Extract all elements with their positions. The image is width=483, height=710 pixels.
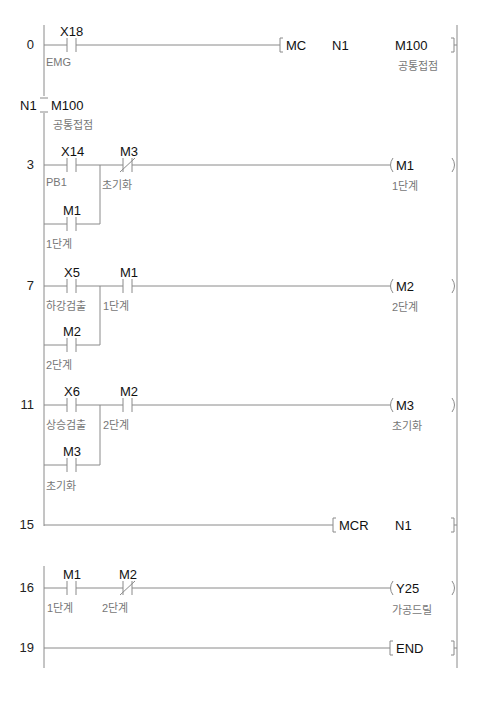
contact-device[interactable]: M1	[120, 265, 138, 280]
contact-device[interactable]: M3	[120, 144, 138, 159]
coil-device[interactable]: M2	[396, 279, 414, 294]
step-number: 7	[4, 278, 34, 293]
coil-comment: 초기화	[392, 417, 422, 433]
instruction-comment: 공통접점	[398, 57, 438, 73]
coil-comment: 가공드릴	[392, 601, 432, 617]
contact-device[interactable]: M1	[63, 567, 81, 582]
contact-device[interactable]: X6	[64, 384, 80, 399]
step-number: 15	[4, 517, 34, 532]
contact-device[interactable]: M2	[119, 567, 137, 582]
branch-device[interactable]: M2	[63, 324, 81, 339]
instruction-arg: N1	[395, 518, 412, 533]
branch-comment: 초기화	[46, 477, 76, 493]
coil-comment: 1단계	[392, 177, 418, 193]
step-number: 16	[4, 580, 34, 595]
contact-device[interactable]: X5	[64, 265, 80, 280]
contact-comment: EMG	[46, 56, 71, 68]
branch-device[interactable]: M1	[63, 203, 81, 218]
contact-device[interactable]: X14	[61, 144, 84, 159]
coil-comment: 2단계	[392, 298, 418, 314]
instruction-op[interactable]: MC	[286, 38, 306, 53]
nest-device: M100	[51, 98, 84, 113]
instruction-op[interactable]: END	[396, 641, 423, 656]
nest-comment: 공통접점	[53, 116, 93, 132]
instruction-arg: M100	[395, 38, 428, 53]
step-number: 0	[4, 37, 34, 52]
contact-device[interactable]: M2	[120, 384, 138, 399]
instruction-op[interactable]: MCR	[339, 518, 369, 533]
instruction-arg: N1	[332, 38, 349, 53]
step-number: 19	[4, 640, 34, 655]
coil-device[interactable]: M1	[396, 158, 414, 173]
contact-comment: 하강검출	[46, 297, 86, 313]
contact-comment: PB1	[46, 176, 67, 188]
contact-comment: 1단계	[47, 599, 73, 615]
contact-comment: 2단계	[103, 416, 129, 432]
step-number: 11	[4, 397, 34, 412]
contact-comment: 초기화	[102, 176, 132, 192]
step-number: 3	[4, 157, 34, 172]
contact-comment: 2단계	[102, 599, 128, 615]
branch-comment: 1단계	[46, 235, 72, 251]
contact-device[interactable]: X18	[60, 24, 83, 39]
contact-comment: 1단계	[103, 297, 129, 313]
nest-label: N1	[20, 98, 37, 113]
branch-comment: 2단계	[46, 356, 72, 372]
branch-device[interactable]: M3	[63, 444, 81, 459]
coil-device[interactable]: M3	[396, 398, 414, 413]
contact-comment: 상승검출	[46, 416, 86, 432]
coil-device[interactable]: Y25	[396, 581, 419, 596]
